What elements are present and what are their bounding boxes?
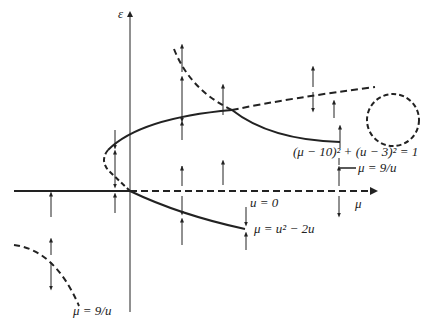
circle-curve <box>367 94 419 146</box>
hyperbola-lower-curve <box>14 245 79 306</box>
u-zero-label: u = 0 <box>250 195 279 210</box>
epsilon-axis-label: ε <box>118 6 124 21</box>
hyperbola-lower-label: μ = 9/u <box>72 303 112 318</box>
bifurcation-diagram: ε μ μ = u² − 2u μ = 9/u (μ − 10)² + (u −… <box>0 0 423 326</box>
mu-axis <box>14 187 378 195</box>
hyperbola-upper-label: μ = 9/u <box>357 160 397 175</box>
parabola-label: μ = u² − 2u <box>253 221 315 236</box>
flow-arrows <box>51 46 340 288</box>
mu-axis-arrow-icon <box>370 187 378 195</box>
hyperbola-upper-curve <box>174 49 340 142</box>
circle-label: (μ − 10)² + (u − 3)² = 1 <box>293 144 418 159</box>
mu-axis-label: μ <box>354 196 362 211</box>
